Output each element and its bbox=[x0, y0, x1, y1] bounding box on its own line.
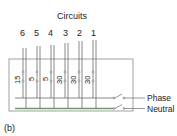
figure-caption: (b) bbox=[4, 123, 15, 133]
fuse-rating-2: 30 bbox=[69, 76, 78, 84]
phase-label: Phase bbox=[147, 93, 171, 103]
circuit-number-2: 2 bbox=[77, 28, 82, 38]
diagram-title: Circuits bbox=[57, 11, 88, 21]
neutral-label: Neutral bbox=[147, 104, 175, 114]
fuse-rating-1: 30 bbox=[83, 76, 92, 84]
circuit-number-4: 4 bbox=[48, 28, 53, 38]
fuse-rating-4: 5 bbox=[41, 77, 50, 81]
board-enclosure bbox=[9, 59, 133, 111]
circuit-number-6: 6 bbox=[20, 28, 25, 38]
neutral-switch-icon bbox=[113, 105, 145, 110]
fuse-rating-3: 30 bbox=[55, 76, 64, 84]
circuit-number-3: 3 bbox=[63, 28, 68, 38]
fuse-rating-6: 15 bbox=[13, 76, 22, 84]
circuit-number-5: 5 bbox=[34, 28, 39, 38]
distribution-board-diagram: Circuits 6 5 4 3 2 1 15 5 5 bbox=[0, 0, 177, 136]
fuse-rating-5: 5 bbox=[27, 77, 36, 81]
phase-switch-icon bbox=[113, 94, 145, 99]
circuit-number-1: 1 bbox=[91, 28, 96, 38]
